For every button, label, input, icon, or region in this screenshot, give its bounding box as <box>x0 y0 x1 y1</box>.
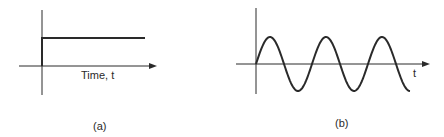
b-axis-arrowhead-icon <box>422 61 430 67</box>
figure-b-sine <box>236 8 430 94</box>
b-x-axis-label: t <box>413 68 416 79</box>
diagram-canvas <box>0 0 444 137</box>
b-caption: (b) <box>335 118 348 129</box>
a-x-axis-label: Time, t <box>81 70 114 81</box>
figure-a-step <box>19 10 157 95</box>
a-step-curve <box>42 38 145 66</box>
a-axis-arrowhead-icon <box>149 63 157 69</box>
a-caption: (a) <box>93 121 106 132</box>
